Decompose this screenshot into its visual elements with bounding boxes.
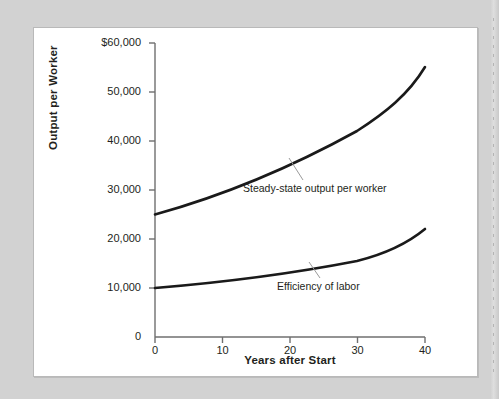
- y-tick-label-50000: 50,000: [71, 85, 141, 97]
- x-axis-ticks: [155, 337, 425, 343]
- x-tick-label-40: 40: [405, 344, 445, 356]
- figure-page: Output per Worker Years after Start $60,…: [0, 0, 499, 399]
- x-tick-label-0: 0: [135, 344, 175, 356]
- x-tick-label-20: 20: [270, 344, 310, 356]
- y-tick-label-40000: 40,000: [71, 134, 141, 146]
- y-tick-label-60000: $60,000: [71, 36, 141, 48]
- y-axis-ticks: [149, 43, 155, 288]
- y-tick-label-0: 0: [71, 330, 141, 342]
- x-tick-label-10: 10: [203, 344, 243, 356]
- annotation-efficiency-of-labor: Efficiency of labor: [277, 280, 360, 292]
- y-tick-label-10000: 10,000: [71, 281, 141, 293]
- y-axis-title: Output per Worker: [47, 10, 59, 150]
- y-tick-label-30000: 30,000: [71, 183, 141, 195]
- x-tick-label-30: 30: [338, 344, 378, 356]
- annotation-steady-state-output: Steady-state output per worker: [243, 182, 387, 194]
- y-tick-label-20000: 20,000: [71, 232, 141, 244]
